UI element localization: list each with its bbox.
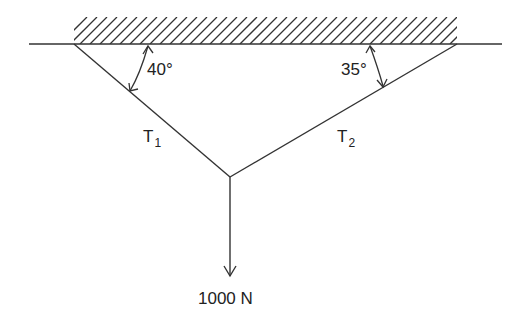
ceiling-hatching — [60, 17, 497, 44]
load-label: 1000 N — [198, 290, 253, 307]
angle-arc-left — [130, 46, 148, 91]
cable-label-t1: T1 — [143, 128, 161, 145]
angle-arrowhead-left-top-icon — [143, 46, 153, 54]
cable-label-t2: T2 — [337, 128, 355, 145]
angle-label-right: 35° — [341, 61, 367, 78]
angle-arrowhead-right-top-icon — [366, 46, 375, 53]
angle-arc-right — [370, 46, 383, 86]
diagram-canvas — [0, 0, 527, 321]
angle-label-left: 40° — [147, 61, 173, 78]
